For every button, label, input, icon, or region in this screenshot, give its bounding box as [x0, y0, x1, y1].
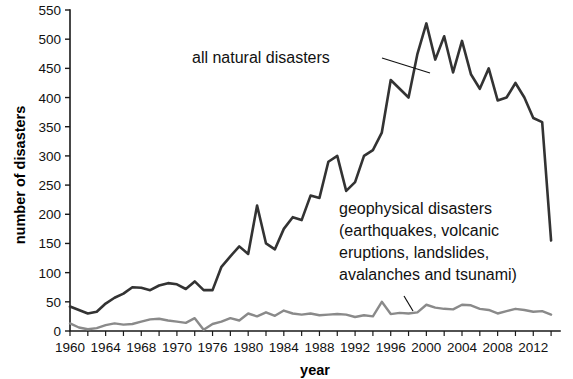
annotation-group: all natural disastersgeophysical disaste… [192, 49, 517, 311]
x-tick-label: 2008 [483, 340, 513, 355]
annotation-line: (earthquakes, volcanic [339, 222, 499, 239]
y-tick-label: 450 [38, 61, 61, 76]
geophysical-disasters-label: geophysical disasters(earthquakes, volca… [339, 200, 517, 283]
x-tick-label: 2004 [447, 340, 478, 355]
y-tick-label: 100 [38, 266, 61, 281]
y-tick-label: 500 [38, 32, 61, 47]
y-axis-title: number of disasters [12, 106, 28, 245]
x-tick-label: 2000 [411, 340, 441, 355]
annotation-leader-line [404, 296, 413, 311]
y-tick-label: 50 [46, 295, 61, 310]
y-tick-label: 250 [38, 178, 61, 193]
x-tick-label: 1976 [198, 340, 228, 355]
x-tick-label: 1970 [162, 340, 192, 355]
annotation-line: geophysical disasters [339, 200, 492, 217]
series-line-geophysical-disasters [70, 302, 551, 330]
x-tick-label: 1984 [269, 340, 300, 355]
annotation-leader-line [382, 58, 430, 73]
series-group [70, 23, 551, 329]
y-axis-tick-group: 050100150200250300350400450500550 [38, 3, 70, 339]
x-axis-tick-group: 1960196419681970197619801984198819921996… [55, 331, 551, 355]
y-tick-label: 400 [38, 91, 61, 106]
x-tick-label: 1960 [55, 340, 85, 355]
y-tick-label: 300 [38, 149, 61, 164]
all-natural-disasters-label: all natural disasters [192, 49, 330, 66]
y-tick-label: 550 [38, 3, 61, 18]
x-tick-label: 1988 [304, 340, 334, 355]
y-tick-label: 150 [38, 236, 61, 251]
annotation-line: avalanches and tsunami) [339, 266, 517, 283]
x-tick-label: 1992 [340, 340, 370, 355]
x-tick-label: 1964 [91, 340, 122, 355]
x-axis-title: year [300, 362, 330, 378]
x-tick-label: 1968 [126, 340, 156, 355]
y-tick-label: 200 [38, 207, 61, 222]
annotation-line: eruptions, landslides, [339, 244, 489, 261]
x-tick-label: 1980 [233, 340, 263, 355]
annotation-line: all natural disasters [192, 49, 330, 66]
chart-canvas: 050100150200250300350400450500550 196019… [0, 0, 573, 379]
x-tick-label: 1996 [376, 340, 406, 355]
y-tick-label: 350 [38, 120, 61, 135]
y-tick-label: 0 [53, 324, 61, 339]
chart-figure: 050100150200250300350400450500550 196019… [0, 0, 573, 379]
x-tick-label: 2012 [518, 340, 548, 355]
